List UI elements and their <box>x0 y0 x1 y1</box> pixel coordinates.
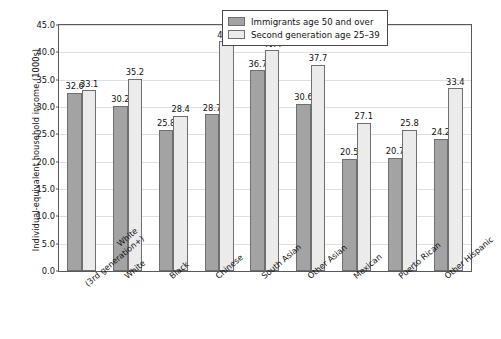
bar <box>219 41 234 271</box>
bar-value-label: 33.1 <box>80 79 98 89</box>
legend-swatch-icon <box>228 17 245 26</box>
bar-value-label: 35.2 <box>126 67 144 77</box>
bar-groups: 32.633.130.235.225.828.428.742.036.740.4… <box>59 25 471 271</box>
bar <box>205 114 220 271</box>
y-axis-tick-label: 5.0 <box>13 239 55 249</box>
bar-group: 32.633.1 <box>59 25 105 271</box>
bar <box>357 123 372 271</box>
y-axis-tick-label: 45.0 <box>13 20 55 30</box>
bar-value-label: 28.4 <box>171 104 189 114</box>
bar <box>173 116 188 271</box>
y-axis-tick-label: 35.0 <box>13 75 55 85</box>
bar <box>388 158 403 271</box>
bar-group: 30.637.7 <box>288 25 334 271</box>
bar <box>448 88 463 271</box>
bar-value-label: 27.1 <box>355 111 373 121</box>
bar <box>67 93 82 271</box>
bar-group: 28.742.0 <box>196 25 242 271</box>
y-axis-tick-label: 15.0 <box>13 184 55 194</box>
bar-group: 25.828.4 <box>151 25 197 271</box>
bar <box>265 50 280 271</box>
chart-legend: Immigrants age 50 and over Second genera… <box>222 10 388 46</box>
legend-label: Immigrants age 50 and over <box>251 17 373 27</box>
y-axis-title: Individual-equivalent household income (… <box>31 30 41 270</box>
bar-value-label: 25.8 <box>400 118 418 128</box>
bar <box>82 90 97 271</box>
x-axis-labels: White(3rd generation+)WhiteBlackChineseS… <box>58 274 472 339</box>
bar <box>159 130 174 271</box>
bar-group: 36.740.4 <box>242 25 288 271</box>
bar-value-label: 33.4 <box>446 77 464 87</box>
y-axis-tick-label: 30.0 <box>13 102 55 112</box>
bar-chart: Individual-equivalent household income (… <box>0 0 501 339</box>
bar <box>402 130 417 271</box>
bar-group: 24.233.4 <box>425 25 471 271</box>
y-axis-tick-label: 40.0 <box>13 47 55 57</box>
legend-item-second-generation: Second generation age 25–39 <box>228 28 380 41</box>
y-axis-tick-label: 0.0 <box>13 266 55 276</box>
bar-value-label: 37.7 <box>309 53 327 63</box>
bar-group: 20.527.1 <box>334 25 380 271</box>
bar <box>250 70 265 271</box>
bar-group: 20.725.8 <box>379 25 425 271</box>
y-axis-tick-label: 10.0 <box>13 211 55 221</box>
legend-item-immigrants: Immigrants age 50 and over <box>228 15 380 28</box>
legend-label: Second generation age 25–39 <box>251 30 380 40</box>
y-axis-tick-label: 25.0 <box>13 129 55 139</box>
y-axis-tick-label: 20.0 <box>13 157 55 167</box>
bar <box>311 65 326 271</box>
legend-swatch-icon <box>228 30 245 39</box>
